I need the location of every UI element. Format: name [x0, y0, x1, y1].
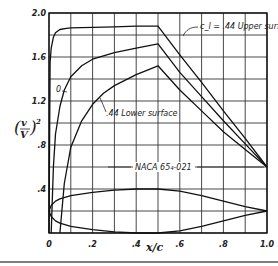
x-tick-label: .4	[132, 240, 141, 249]
series-line-1	[51, 44, 267, 233]
svg-text:2: 2	[35, 117, 41, 126]
lower-leader-line	[100, 98, 106, 112]
y-tick-label: 1.6	[32, 53, 47, 62]
grid	[49, 13, 267, 233]
y-tick-label: 2.0	[32, 9, 47, 18]
series-line-2	[60, 66, 267, 233]
zero-lift-label: 0	[56, 85, 61, 94]
x-tick-label: 0	[46, 240, 52, 249]
x-tick-label: .2	[88, 240, 97, 249]
pressure-distribution-chart: 0.2.4.6.81.0.4.81.21.62.0 c_l = .44 Uppe…	[0, 0, 278, 266]
x-tick-label: .6	[175, 240, 184, 249]
x-tick-label: 1.0	[260, 240, 275, 249]
airfoil-label: NACA 65₄-021	[135, 163, 192, 172]
y-axis-label: ( v V ) 2	[14, 117, 41, 140]
y-tick-label: .4	[37, 185, 46, 194]
x-axis-label: x/c	[145, 241, 164, 254]
svg-text:V: V	[20, 129, 29, 140]
y-tick-label: .8	[37, 141, 46, 150]
lower-surface-label: .44 Lower surface	[106, 109, 178, 118]
upper-surface-label: c_l = .44 Upper surface	[200, 22, 278, 31]
x-tick-label: .8	[219, 240, 228, 249]
svg-text:v: v	[21, 117, 27, 128]
y-tick-label: 1.2	[32, 97, 47, 106]
zero-leader-line	[62, 91, 67, 92]
